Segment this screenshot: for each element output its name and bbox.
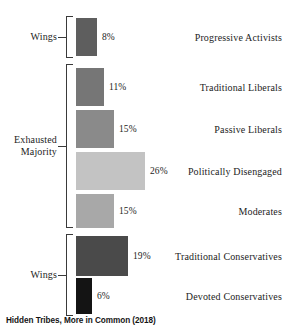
bar-moderates — [76, 194, 114, 228]
category-label-politically-disengaged: Politically Disengaged — [112, 166, 282, 177]
category-label-passive-liberals: Passive Liberals — [112, 124, 282, 135]
bar-row: 6% Devoted Conservatives — [0, 278, 285, 314]
category-label-traditional-conservatives: Traditional Conservatives — [112, 251, 282, 262]
bar-value-label: 6% — [97, 291, 110, 301]
bar-row: 8% Progressive Activists — [0, 18, 285, 56]
bar-traditional-liberals — [76, 68, 104, 106]
bar-progressive-activists — [76, 18, 97, 56]
category-label-devoted-conservatives: Devoted Conservatives — [112, 291, 282, 302]
category-label-moderates: Moderates — [112, 206, 282, 217]
bar-chart: Wings Exhausted Majority Wings 8% Progre… — [0, 0, 285, 335]
bar-devoted-conservatives — [76, 278, 92, 314]
bar-row: 19% Traditional Conservatives — [0, 236, 285, 276]
bar-row: 15% Moderates — [0, 194, 285, 228]
bar-row: 15% Passive Liberals — [0, 110, 285, 148]
category-label-progressive-activists: Progressive Activists — [112, 32, 282, 43]
bar-row: 26% Politically Disengaged — [0, 152, 285, 190]
bar-row: 11% Traditional Liberals — [0, 68, 285, 106]
source-credit: Hidden Tribes, More in Common (2018) — [6, 316, 156, 325]
bar-passive-liberals — [76, 110, 114, 148]
category-label-traditional-liberals: Traditional Liberals — [112, 82, 282, 93]
